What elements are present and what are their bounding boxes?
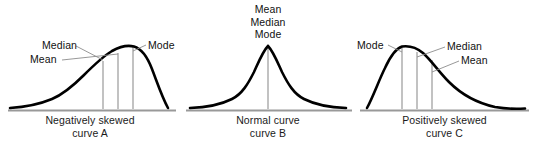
leader-line-mean-a bbox=[62, 54, 118, 60]
label-mean-b: Mean bbox=[178, 3, 358, 16]
panel-positively-skewed: Mode Median Mean Positively skewed curve… bbox=[355, 0, 534, 147]
label-mode-c: Mode bbox=[357, 39, 384, 51]
label-mean-a: Mean bbox=[30, 53, 57, 65]
caption-curve-a: Negatively skewed curve A bbox=[0, 114, 180, 139]
caption-curve-b: Normal curve curve B bbox=[178, 114, 358, 139]
caption-a-line2: curve A bbox=[0, 127, 180, 140]
caption-b-line1: Normal curve bbox=[178, 114, 358, 127]
caption-a-line1: Negatively skewed bbox=[0, 114, 180, 127]
curve-c-path bbox=[367, 46, 525, 108]
skewness-figure: Median Mean Mode Negatively skewed curve… bbox=[0, 0, 534, 147]
label-mode-a: Mode bbox=[148, 39, 175, 51]
label-stack-b: Mean Median Mode bbox=[178, 3, 358, 41]
caption-b-line2: curve B bbox=[178, 127, 358, 140]
caption-c-line1: Positively skewed bbox=[355, 114, 534, 127]
caption-curve-c: Positively skewed curve C bbox=[355, 114, 534, 139]
panel-normal-curve: Mean Median Mode Normal curve curve B bbox=[178, 0, 358, 147]
label-mean-c: Mean bbox=[461, 54, 488, 66]
label-mode-b: Mode bbox=[178, 28, 358, 41]
label-median-a: Median bbox=[42, 39, 77, 51]
panel-negatively-skewed: Median Mean Mode Negatively skewed curve… bbox=[0, 0, 180, 147]
label-median-b: Median bbox=[178, 16, 358, 29]
label-median-c: Median bbox=[447, 40, 482, 52]
caption-c-line2: curve C bbox=[355, 127, 534, 140]
